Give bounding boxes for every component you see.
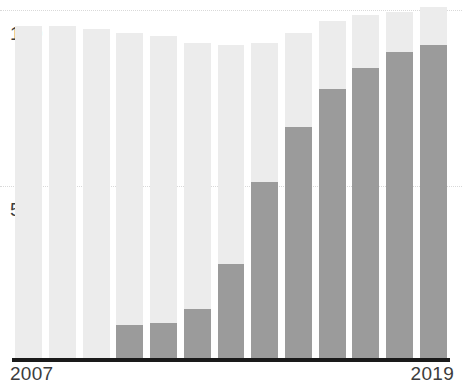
bars-layer	[0, 0, 462, 362]
bar-group[interactable]	[352, 0, 379, 360]
bar-segment-filled	[319, 89, 346, 360]
bar-group[interactable]	[386, 0, 413, 360]
bar-segment-remainder	[15, 26, 42, 360]
bar-segment-filled	[150, 323, 177, 360]
bar-segment-filled	[116, 325, 143, 360]
x-axis-label-2007: 2007	[10, 364, 53, 383]
bar-segment-remainder	[49, 26, 76, 360]
bar-group[interactable]	[116, 0, 143, 360]
bar-group[interactable]	[83, 0, 110, 360]
bar-group[interactable]	[49, 0, 76, 360]
bar-group[interactable]	[184, 0, 211, 360]
bar-segment-remainder	[116, 33, 143, 360]
x-axis-line	[12, 358, 450, 362]
bar-segment-filled	[218, 264, 245, 360]
bar-chart: 100 50 2007 2019	[0, 0, 462, 385]
bar-segment-filled	[420, 45, 447, 360]
bar-segment-filled	[285, 127, 312, 360]
x-axis-labels: 2007 2019	[0, 364, 462, 385]
plot-area: 100 50	[0, 0, 462, 362]
bar-group[interactable]	[218, 0, 245, 360]
bar-group[interactable]	[285, 0, 312, 360]
bar-group[interactable]	[420, 0, 447, 360]
bar-group[interactable]	[15, 0, 42, 360]
bar-segment-filled	[352, 68, 379, 360]
bar-segment-filled	[251, 182, 278, 361]
bar-group[interactable]	[150, 0, 177, 360]
x-axis-label-2019: 2019	[411, 364, 454, 383]
bar-group[interactable]	[251, 0, 278, 360]
bar-segment-remainder	[150, 36, 177, 360]
bar-segment-filled	[386, 52, 413, 360]
bar-segment-remainder	[83, 29, 110, 360]
bar-segment-filled	[184, 309, 211, 360]
bar-group[interactable]	[319, 0, 346, 360]
